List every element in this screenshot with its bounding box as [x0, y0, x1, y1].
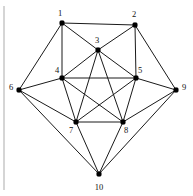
graph-edge-3-8	[98, 50, 123, 122]
graph-node-label-9: 9	[182, 82, 186, 92]
graph-edge-5-7	[76, 78, 136, 122]
graph-edge-9-10	[99, 90, 176, 174]
graph-node-1	[60, 21, 64, 25]
graph-figure: 12345678910	[0, 0, 193, 196]
graph-edge-2-9	[135, 25, 176, 90]
graph-edge-3-7	[76, 50, 98, 122]
graph-edge-3-5	[98, 50, 136, 78]
graph-node-6	[17, 88, 21, 92]
graph-node-10	[97, 172, 101, 176]
edge-layer	[19, 23, 176, 174]
graph-edge-1-2	[62, 23, 135, 25]
graph-node-label-2: 2	[132, 9, 136, 19]
graph-node-9	[174, 88, 178, 92]
graph-edge-1-3	[62, 23, 98, 50]
graph-edge-6-10	[19, 90, 99, 174]
graph-edge-3-4	[62, 50, 98, 78]
graph-node-3	[96, 48, 100, 52]
graph-edge-2-3	[98, 25, 135, 50]
graph-node-label-4: 4	[55, 65, 60, 75]
graph-canvas: 12345678910	[0, 0, 193, 196]
graph-node-8	[121, 120, 125, 124]
graph-node-label-8: 8	[124, 125, 128, 135]
graph-node-label-6: 6	[9, 82, 13, 92]
graph-node-7	[74, 120, 78, 124]
graph-edge-4-8	[62, 78, 123, 122]
graph-node-label-10: 10	[95, 182, 104, 192]
graph-node-4	[60, 76, 64, 80]
graph-node-label-1: 1	[58, 8, 62, 18]
graph-node-label-5: 5	[138, 65, 142, 75]
graph-edge-2-5	[135, 25, 136, 78]
graph-node-label-7: 7	[69, 125, 73, 135]
graph-node-2	[133, 23, 137, 27]
graph-edge-8-10	[99, 122, 123, 174]
graph-node-label-3: 3	[95, 35, 99, 45]
graph-edge-7-10	[76, 122, 99, 174]
graph-node-5	[134, 76, 138, 80]
